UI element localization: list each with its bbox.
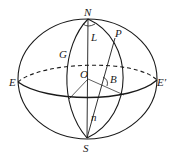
label-E: E: [8, 76, 16, 88]
label-B: B: [110, 73, 117, 85]
label-L: L: [90, 31, 97, 43]
sphere-diagram: N L P G E E′ O B n S: [0, 0, 172, 161]
label-O: O: [80, 68, 88, 80]
label-P: P: [114, 27, 122, 39]
angle-arc-N: [83, 24, 95, 26]
label-E-prime: E′: [156, 76, 167, 88]
label-N: N: [83, 6, 92, 18]
line-P-S: [87, 38, 115, 138]
radius-O-right: [88, 79, 124, 95]
label-G: G: [59, 48, 67, 60]
label-S: S: [83, 142, 89, 154]
radius-O-left: [69, 79, 88, 99]
label-n: n: [91, 111, 97, 123]
